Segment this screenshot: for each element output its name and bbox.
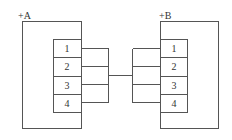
- device-b-terminal-block: 1 2 3 4: [161, 40, 188, 113]
- wiring-diagram: +A 1 2 3 4 +B 1 2: [0, 0, 232, 140]
- device-a-label: +A: [18, 10, 32, 21]
- b-terminal-2: 2: [172, 61, 177, 72]
- device-b-label: +B: [159, 10, 172, 21]
- b-terminal-3: 3: [172, 80, 177, 91]
- b-terminal-1: 1: [172, 43, 177, 54]
- a-terminal-4: 4: [65, 98, 70, 109]
- a-terminal-3: 3: [65, 80, 70, 91]
- a-terminal-2: 2: [65, 61, 70, 72]
- device-a: +A 1 2 3 4: [18, 10, 109, 129]
- device-a-wires: [82, 49, 109, 103]
- device-b: +B 1 2 3 4: [133, 10, 219, 129]
- device-b-wires: [133, 49, 161, 103]
- device-a-terminal-block: 1 2 3 4: [54, 40, 82, 113]
- b-terminal-4: 4: [172, 98, 177, 109]
- a-terminal-1: 1: [65, 43, 70, 54]
